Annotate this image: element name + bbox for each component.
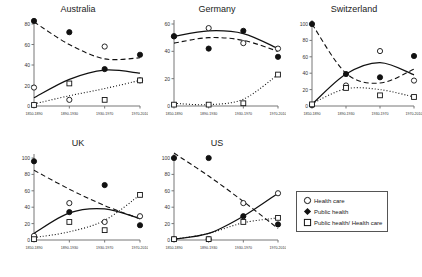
svg-text:1930-1970: 1930-1970 [371, 112, 388, 116]
panel-australia: Australia 0204060801850-18901890-1930193… [8, 4, 148, 134]
marker-public-health-ratio [172, 237, 177, 242]
marker-public-health-ratio [344, 86, 349, 91]
trend-line [34, 70, 140, 98]
svg-text:80: 80 [24, 21, 30, 27]
svg-text:1890-1930: 1890-1930 [337, 112, 354, 116]
svg-text:1970-2010: 1970-2010 [131, 246, 148, 250]
marker-public-health-ratio [138, 78, 143, 83]
svg-text:1930-1970: 1930-1970 [96, 112, 113, 116]
panel-uk: UK 0204060801001850-18901890-19301930-19… [8, 138, 148, 268]
marker-public-health [275, 54, 280, 59]
marker-public-health-ratio [102, 97, 107, 102]
filled-diamond-icon [301, 206, 314, 217]
svg-text:0: 0 [167, 103, 170, 109]
svg-text:1850-1890: 1850-1890 [303, 112, 320, 116]
marker-public-health-ratio [276, 215, 281, 220]
marker-public-health [171, 34, 176, 39]
trend-line [174, 75, 278, 105]
svg-text:60: 60 [164, 188, 170, 194]
svg-text:1890-1930: 1890-1930 [61, 112, 78, 116]
marker-public-health [275, 222, 280, 227]
svg-text:20: 20 [302, 87, 308, 93]
marker-public-health-ratio [32, 237, 37, 242]
svg-text:0: 0 [27, 237, 30, 243]
marker-public-health [309, 21, 314, 26]
plot-area: 0204060801001850-18901890-19301930-19701… [8, 138, 148, 268]
marker-public-health [137, 223, 142, 228]
svg-text:60: 60 [24, 42, 30, 48]
marker-public-health-ratio [172, 102, 177, 107]
svg-text:80: 80 [24, 171, 30, 177]
trend-line [174, 38, 278, 52]
marker-public-health [206, 46, 211, 51]
marker-public-health [31, 159, 36, 164]
marker-public-health-ratio [206, 237, 211, 242]
plot-area: 0204060801001850-18901890-19301930-19701… [286, 4, 422, 134]
marker-public-health [241, 214, 246, 219]
svg-text:40: 40 [164, 204, 170, 210]
marker-public-health-ratio [206, 102, 211, 107]
svg-text:1930-1970: 1930-1970 [235, 112, 252, 116]
marker-public-health-ratio [412, 95, 417, 100]
svg-text:80: 80 [302, 37, 308, 43]
svg-text:40: 40 [24, 204, 30, 210]
svg-text:20: 20 [164, 76, 170, 82]
trend-line [34, 22, 140, 60]
legend-item-public-health: Public health [301, 206, 382, 217]
marker-public-health [137, 52, 142, 57]
plot-area: 0204060801001850-18901890-19301930-19701… [148, 138, 286, 268]
svg-text:100: 100 [162, 155, 171, 161]
marker-health-care [67, 201, 72, 206]
marker-public-health [102, 182, 107, 187]
svg-text:1850-1890: 1850-1890 [25, 246, 42, 250]
svg-text:40: 40 [164, 48, 170, 54]
svg-text:60: 60 [302, 54, 308, 60]
marker-health-care [411, 78, 416, 83]
marker-public-health-ratio [241, 101, 246, 106]
marker-public-health [206, 155, 211, 160]
svg-text:0: 0 [167, 237, 170, 243]
chart-legend: Health care Public health Public health/… [296, 191, 388, 232]
marker-public-health-ratio [138, 193, 143, 198]
marker-public-health-ratio [276, 72, 281, 77]
legend-item-health-care: Health care [301, 195, 382, 206]
legend-label: Public health/ Health care [314, 220, 382, 226]
svg-text:20: 20 [24, 83, 30, 89]
marker-public-health [102, 67, 107, 72]
figure-multi-panel-chart: Australia 0204060801850-18901890-1930193… [0, 0, 422, 277]
svg-text:20: 20 [164, 221, 170, 227]
marker-public-health-ratio [241, 220, 246, 225]
marker-health-care [241, 41, 246, 46]
svg-text:40: 40 [24, 62, 30, 68]
svg-text:1850-1890: 1850-1890 [165, 112, 182, 116]
marker-health-care [377, 48, 382, 53]
svg-text:60: 60 [24, 188, 30, 194]
svg-text:1890-1930: 1890-1930 [200, 112, 217, 116]
marker-health-care [206, 26, 211, 31]
marker-health-care [67, 97, 72, 102]
marker-public-health-ratio [310, 102, 315, 107]
trend-line [34, 80, 140, 104]
svg-text:1930-1970: 1930-1970 [235, 246, 252, 250]
svg-text:1890-1930: 1890-1930 [200, 246, 217, 250]
marker-health-care [275, 46, 280, 51]
svg-text:1970-2010: 1970-2010 [131, 112, 148, 116]
legend-item-public-health-ratio: Public health/ Health care [301, 217, 382, 228]
svg-text:1850-1890: 1850-1890 [25, 112, 42, 116]
marker-public-health [377, 75, 382, 80]
marker-health-care [102, 219, 107, 224]
svg-text:1970-2010: 1970-2010 [269, 246, 286, 250]
plot-area: 0204060801850-18901890-19301930-19701970… [8, 4, 148, 134]
svg-text:1930-1970: 1930-1970 [96, 246, 113, 250]
panel-us: US 0204060801001850-18901890-19301930-19… [148, 138, 286, 268]
svg-text:1850-1890: 1850-1890 [165, 246, 182, 250]
svg-text:1890-1930: 1890-1930 [61, 246, 78, 250]
panel-switzerland: Switzerland 0204060801001850-18901890-19… [286, 4, 422, 134]
trend-line [174, 218, 278, 239]
marker-public-health-ratio [102, 228, 107, 233]
open-square-icon [301, 217, 314, 228]
marker-health-care [102, 44, 107, 49]
marker-public-health [31, 18, 36, 23]
marker-public-health-ratio [378, 93, 383, 98]
marker-public-health [67, 30, 72, 35]
